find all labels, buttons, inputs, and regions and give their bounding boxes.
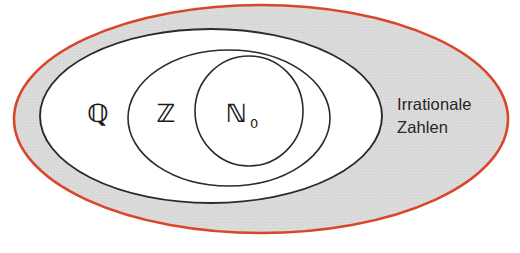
set-label-natural-subscript: 0 bbox=[250, 116, 258, 131]
set-label-integer: ℤ bbox=[157, 99, 176, 128]
set-label-natural: ℕ bbox=[226, 99, 247, 128]
irrational-numbers-label-line1: Irrationale bbox=[397, 95, 471, 113]
number-sets-venn-diagram: ℚ ℤ ℕ 0 Irrationale Zahlen bbox=[0, 0, 520, 253]
set-label-rational: ℚ bbox=[87, 99, 108, 128]
venn-diagram-canvas: ℚ ℤ ℕ 0 Irrationale Zahlen bbox=[0, 0, 520, 253]
irrational-numbers-label-line2: Zahlen bbox=[397, 118, 448, 136]
natural-numbers-ellipse bbox=[195, 56, 303, 166]
